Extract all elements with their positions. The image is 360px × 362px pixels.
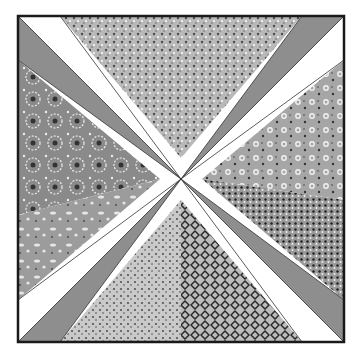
quilt-block bbox=[0, 0, 360, 362]
